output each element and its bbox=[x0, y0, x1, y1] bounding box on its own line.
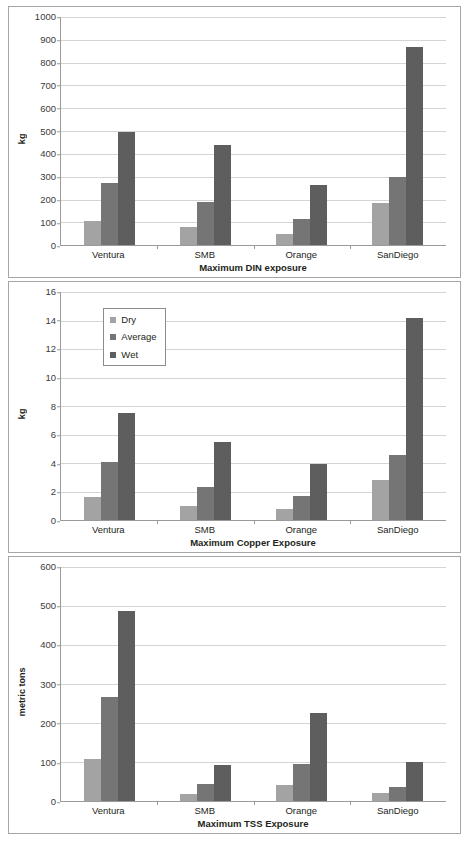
bar-group bbox=[157, 292, 253, 520]
y-tick-label: 4 bbox=[51, 459, 56, 469]
x-category-label: Ventura bbox=[60, 525, 157, 535]
x-axis-categories-tss: VenturaSMBOrangeSanDiego bbox=[60, 806, 446, 816]
bar-group bbox=[254, 17, 350, 245]
y-tick-label: 10 bbox=[45, 373, 56, 383]
legend-swatch-icon bbox=[110, 334, 116, 340]
y-tick-label: 400 bbox=[40, 641, 56, 651]
legend-item: Wet bbox=[110, 350, 156, 360]
bar-dry bbox=[372, 203, 389, 245]
y-tick-label: 600 bbox=[40, 104, 56, 114]
x-category-label: Orange bbox=[253, 250, 350, 260]
category-tick bbox=[254, 245, 255, 249]
bar-dry bbox=[180, 227, 197, 245]
bar-average bbox=[293, 496, 310, 520]
y-tick-label: 2 bbox=[51, 488, 56, 498]
bar-wet bbox=[310, 713, 327, 801]
bar-group bbox=[254, 292, 350, 520]
y-tick-label: 400 bbox=[40, 150, 56, 160]
y-tick-label: 1000 bbox=[35, 12, 56, 22]
bar-dry bbox=[276, 234, 293, 246]
category-tick bbox=[254, 520, 255, 524]
y-tick-label: 0 bbox=[51, 516, 56, 526]
category-tick bbox=[157, 520, 158, 524]
chart-panel-tss: metric tons 0100200300400500600 VenturaS… bbox=[8, 556, 461, 834]
bar-average bbox=[389, 177, 406, 245]
bar-average bbox=[293, 219, 310, 245]
bar-wet bbox=[214, 442, 231, 520]
x-category-label: Ventura bbox=[60, 250, 157, 260]
legend-swatch-icon bbox=[110, 352, 116, 358]
bar-average bbox=[197, 784, 214, 801]
x-category-label: Ventura bbox=[60, 806, 157, 816]
plot-area-tss bbox=[60, 567, 446, 802]
legend-label: Wet bbox=[121, 350, 138, 360]
bar-dry bbox=[84, 221, 101, 246]
x-axis-title-tss: Maximum TSS Exposure bbox=[60, 819, 446, 829]
y-tick-label: 200 bbox=[40, 719, 56, 729]
y-tick-label: 800 bbox=[40, 58, 56, 68]
y-tick-label: 900 bbox=[40, 35, 56, 45]
y-axis-ticks-copper: 0246810121416 bbox=[28, 292, 60, 521]
y-tick-label: 0 bbox=[51, 797, 56, 807]
y-tick-label: 500 bbox=[40, 127, 56, 137]
bar-group bbox=[350, 567, 446, 801]
bar-dry bbox=[372, 480, 389, 520]
bar-average bbox=[197, 487, 214, 521]
bar-dry bbox=[84, 497, 101, 520]
y-tick-label: 100 bbox=[40, 758, 56, 768]
x-axis-categories-copper: VenturaSMBOrangeSanDiego bbox=[60, 525, 446, 535]
x-category-label: SMB bbox=[157, 250, 254, 260]
bar-wet bbox=[214, 145, 231, 245]
bar-average bbox=[101, 697, 118, 801]
x-category-label: SanDiego bbox=[350, 806, 447, 816]
bar-dry bbox=[276, 509, 293, 520]
legend-item: Average bbox=[110, 332, 156, 342]
bar-wet bbox=[214, 765, 231, 801]
bar-wet bbox=[118, 413, 135, 520]
bar-wet bbox=[118, 132, 135, 246]
y-tick-label: 300 bbox=[40, 173, 56, 183]
chart-panel-copper: kg 0246810121416 DryAverageWet VenturaSM… bbox=[8, 281, 461, 553]
x-category-label: SMB bbox=[157, 806, 254, 816]
legend-item: Dry bbox=[110, 315, 156, 325]
plot-area-din bbox=[60, 17, 446, 246]
bar-dry bbox=[276, 785, 293, 801]
plot-area-copper: DryAverageWet bbox=[60, 292, 446, 521]
bar-wet bbox=[310, 185, 327, 245]
y-tick-label: 8 bbox=[51, 402, 56, 412]
x-axis-categories-din: VenturaSMBOrangeSanDiego bbox=[60, 250, 446, 260]
category-tick bbox=[254, 801, 255, 805]
bar-average bbox=[293, 764, 310, 801]
x-category-label: SMB bbox=[157, 525, 254, 535]
x-axis-title-din: Maximum DIN exposure bbox=[60, 263, 446, 273]
bar-wet bbox=[406, 47, 423, 245]
category-tick bbox=[157, 801, 158, 805]
x-category-label: Orange bbox=[253, 525, 350, 535]
bar-average bbox=[389, 455, 406, 521]
bar-group bbox=[157, 567, 253, 801]
bar-wet bbox=[406, 762, 423, 801]
bar-group bbox=[157, 17, 253, 245]
category-tick bbox=[350, 801, 351, 805]
y-tick-label: 6 bbox=[51, 430, 56, 440]
bar-group bbox=[350, 292, 446, 520]
bar-wet bbox=[310, 464, 327, 520]
bar-dry bbox=[180, 794, 197, 801]
y-axis-ticks-tss: 0100200300400500600 bbox=[28, 567, 60, 802]
bar-average bbox=[101, 462, 118, 520]
y-tick-label: 600 bbox=[40, 562, 56, 572]
bar-dry bbox=[372, 793, 389, 802]
bar-dry bbox=[180, 506, 197, 520]
y-tick-label: 12 bbox=[45, 345, 56, 355]
chart-panel-din: kg 01002003004005006007008009001000 Vent… bbox=[8, 6, 461, 278]
bar-average bbox=[389, 787, 406, 801]
y-tick-label: 0 bbox=[51, 241, 56, 251]
category-tick bbox=[157, 245, 158, 249]
y-tick-label: 200 bbox=[40, 196, 56, 206]
y-axis-label-copper: kg bbox=[15, 292, 28, 521]
bar-wet bbox=[406, 318, 423, 520]
category-tick bbox=[350, 245, 351, 249]
legend: DryAverageWet bbox=[103, 308, 165, 367]
y-tick-label: 700 bbox=[40, 81, 56, 91]
bar-group bbox=[254, 567, 350, 801]
